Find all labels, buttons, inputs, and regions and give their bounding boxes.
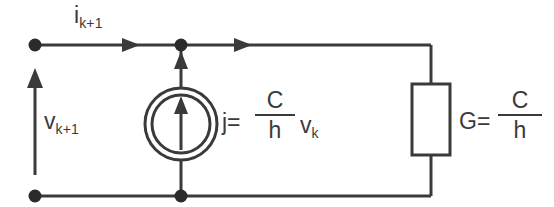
conductance-equation-prefix: G= [459,110,490,133]
conductance-fraction: C h [498,88,542,142]
source-equation-prefix: j= [222,111,241,134]
source-fraction-bar [255,114,295,116]
source-factor-subscript: k [312,125,319,141]
voltage-reference-arrow [27,68,43,175]
current-label-subscript: k+1 [79,15,103,31]
source-fraction: C h [255,88,295,142]
node-dot-top-middle [175,39,188,52]
circuit-diagram-canvas: ik+1 vk+1 j= C h vk G= C h [0,0,554,207]
voltage-label: vk+1 [44,110,79,133]
voltage-label-subscript: k+1 [56,121,80,137]
conductance-fraction-denominator: h [498,118,542,142]
node-dot-top-left [29,39,42,52]
source-branch-arrow [174,51,188,69]
node-dot-bottom-left [29,190,42,203]
node-dot-bottom-middle [175,190,188,203]
conductance-fraction-numerator: C [498,88,542,112]
conductance-fraction-bar [498,114,542,116]
source-factor-symbol: v [300,112,312,138]
current-arrow-right [234,38,252,52]
current-label: ik+1 [74,4,103,27]
voltage-label-symbol: v [44,108,56,134]
source-equation-factor: vk [300,114,319,137]
source-fraction-numerator: C [255,88,295,112]
current-arrow-left [122,38,140,52]
resistor-box [412,84,450,155]
source-fraction-denominator: h [255,118,295,142]
